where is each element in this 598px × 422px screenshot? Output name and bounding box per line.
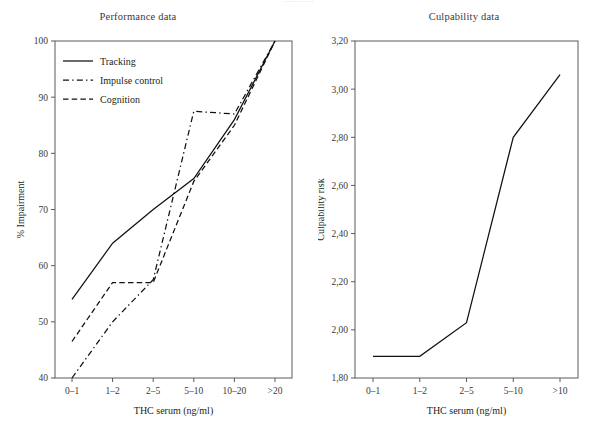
- y-axis-tick-label: 100: [34, 36, 49, 46]
- y-axis-label: % Impairment: [15, 181, 26, 239]
- x-axis-tick-label: 5–10: [184, 386, 203, 396]
- legend: TrackingImpulse controlCognition: [63, 56, 163, 105]
- y-axis-tick-label: 40: [39, 373, 49, 383]
- y-axis-tick-label: 60: [39, 261, 49, 271]
- y-axis-tick-label: 2,00: [331, 325, 348, 335]
- plot-frame: [355, 41, 578, 378]
- legend-label-impulse-control: Impulse control: [100, 75, 163, 86]
- y-axis-tick-label: 2,60: [331, 181, 348, 191]
- y-axis-tick-label: 70: [39, 205, 49, 215]
- y-axis-tick-label: 1,80: [331, 373, 348, 383]
- x-axis-tick-label: 1–2: [105, 386, 120, 396]
- x-axis-tick-label: >10: [553, 386, 568, 396]
- y-axis-tick-label: 90: [39, 93, 49, 103]
- culpability-chart-svg: 1,802,002,202,402,602,803,003,200–11–22–…: [318, 0, 598, 422]
- x-axis-tick-label: 10–20: [223, 386, 247, 396]
- figure-page: ............ Performance data 4050607080…: [0, 0, 598, 422]
- y-axis-tick-label: 3,20: [331, 36, 348, 46]
- x-axis-tick-label: 2–5: [146, 386, 161, 396]
- x-axis-tick-label: 2–5: [459, 386, 474, 396]
- x-axis-tick-label: 0–1: [366, 386, 381, 396]
- performance-chart-svg: 4050607080901000–11–22–55–1010–20>20THC …: [0, 0, 320, 422]
- legend-label-tracking: Tracking: [100, 56, 136, 67]
- x-axis-label: THC serum (ng/ml): [134, 405, 213, 417]
- chart-panel-culpability: Culpability data 1,802,002,202,402,602,8…: [318, 0, 598, 422]
- y-axis-label: Culpability risk: [318, 178, 326, 241]
- y-axis-tick-label: 2,40: [331, 229, 348, 239]
- series-line-culpability-risk: [373, 75, 560, 357]
- x-axis-tick-label: 1–2: [413, 386, 428, 396]
- y-axis-tick-label: 2,20: [331, 277, 348, 287]
- x-axis-tick-label: >20: [268, 386, 283, 396]
- legend-label-cognition: Cognition: [100, 94, 140, 105]
- y-axis-tick-label: 50: [39, 317, 49, 327]
- x-axis-tick-label: 0–1: [65, 386, 80, 396]
- series-line-impulse-control: [72, 41, 275, 378]
- x-axis-tick-label: 5–10: [504, 386, 523, 396]
- y-axis-tick-label: 3,00: [331, 85, 348, 95]
- chart-panel-performance: Performance data 4050607080901000–11–22–…: [0, 0, 320, 422]
- plot-frame: [55, 41, 292, 378]
- series-line-cognition: [72, 41, 275, 341]
- y-axis-tick-label: 80: [39, 149, 49, 159]
- x-axis-label: THC serum (ng/ml): [427, 405, 506, 417]
- y-axis-tick-label: 2,80: [331, 133, 348, 143]
